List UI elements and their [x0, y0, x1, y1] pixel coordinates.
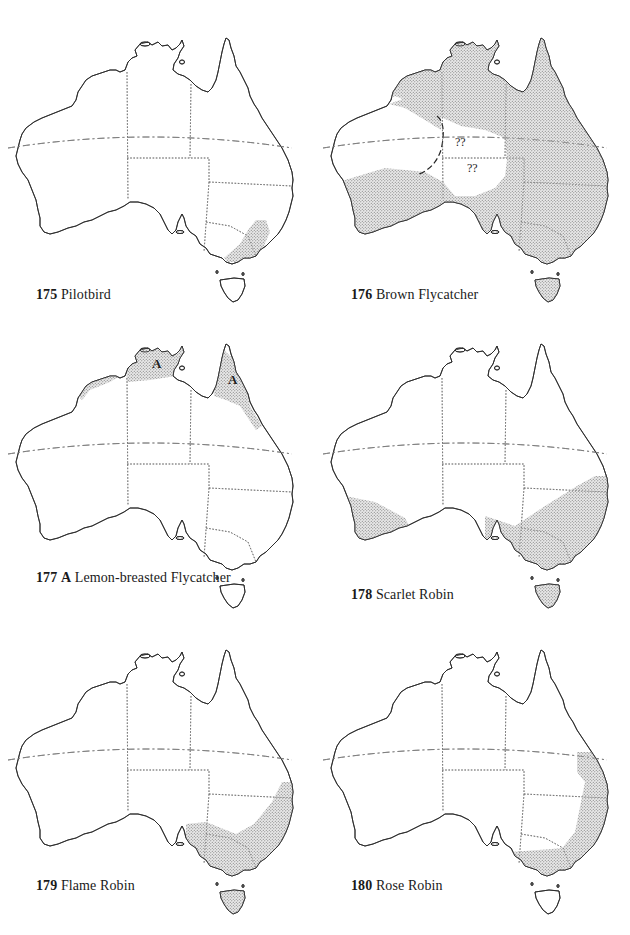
uncertain-marker: ?? — [467, 161, 478, 175]
australia-map: ?? ?? — [315, 0, 630, 310]
map-caption: 178 Scarlet Robin — [351, 587, 454, 603]
species-number: 177 — [36, 570, 57, 585]
species-name: Rose Robin — [376, 878, 443, 893]
map-panel-180: 180 Rose Robin — [315, 612, 630, 922]
australia-map — [0, 612, 315, 922]
australia-map — [315, 306, 630, 616]
subspecies-marker: A — [228, 372, 238, 387]
map-caption: 177 A Lemon-breasted Flycatcher — [36, 570, 231, 586]
map-caption: 175 Pilotbird — [36, 287, 111, 303]
species-number: 180 — [351, 878, 372, 893]
map-caption: 180 Rose Robin — [351, 878, 443, 894]
species-name: Flame Robin — [61, 878, 135, 893]
map-panel-175: 175 Pilotbird — [0, 0, 315, 310]
species-name: Scarlet Robin — [376, 587, 454, 602]
species-number: 175 — [36, 287, 57, 302]
species-number: 179 — [36, 878, 57, 893]
species-name: Pilotbird — [61, 287, 111, 302]
map-panel-177: A A 177 A Lemon-breasted Flycatcher — [0, 306, 315, 616]
australia-map — [0, 0, 315, 310]
subspecies-marker: A — [152, 356, 162, 371]
map-caption: 176 Brown Flycatcher — [351, 287, 478, 303]
species-number: 178 — [351, 587, 372, 602]
australia-map — [315, 612, 630, 922]
species-name: Brown Flycatcher — [376, 287, 478, 302]
subspecies-marker-label: A — [61, 570, 71, 585]
map-panel-179: 179 Flame Robin — [0, 612, 315, 922]
map-panel-176: ?? ?? 176 Brown Flycatcher — [315, 0, 630, 310]
map-caption: 179 Flame Robin — [36, 878, 135, 894]
map-panel-178: 178 Scarlet Robin — [315, 306, 630, 616]
species-number: 176 — [351, 287, 372, 302]
species-name: Lemon-breasted Flycatcher — [75, 570, 231, 585]
